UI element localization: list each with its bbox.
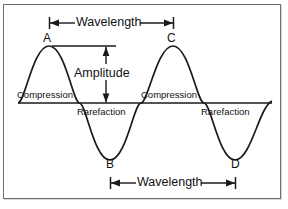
point-label-b: B xyxy=(106,158,114,170)
point-label-c: C xyxy=(167,32,176,44)
wave-diagram-figure: A B C D Wavelength Wavelength Amplitude … xyxy=(0,0,288,209)
wavelength-bottom-label: Wavelength xyxy=(137,176,203,189)
point-label-a: A xyxy=(43,32,51,44)
amplitude-label: Amplitude xyxy=(74,67,130,80)
point-label-d: D xyxy=(231,158,240,170)
compression-label-left: Compression xyxy=(17,90,73,100)
compression-label-right: Compression xyxy=(141,90,197,100)
rarefaction-label-left: Rarefaction xyxy=(77,107,126,117)
rarefaction-label-right: Rarefaction xyxy=(201,107,250,117)
wavelength-top-label: Wavelength xyxy=(76,16,142,29)
